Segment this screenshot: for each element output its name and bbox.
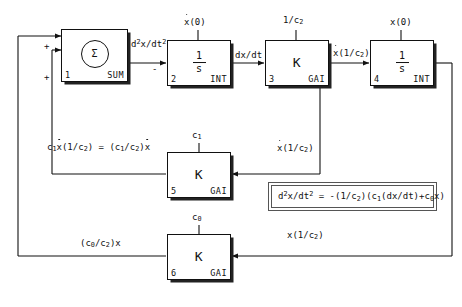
label-gain3-coefficient: 1/c2 [283,15,303,27]
block-kind-5: GAI [210,186,227,197]
block-index-1: 1 [65,70,70,81]
block-kind-6: GAI [210,268,227,279]
sign-sum-input-bottom: + [44,72,49,82]
label-signal-gain6-input: x(1/c2) [287,230,324,242]
label-signal-gain5-input: x(1/c2) [277,143,314,155]
label-gain5-coefficient: c1 [192,130,202,142]
block-gain-3[interactable]: K 3 GAI [265,40,329,86]
sign-sum-input-top: + [44,41,49,51]
label-ic-x-zero: x(0) [390,17,412,27]
block-index-6: 6 [171,268,176,279]
label-ic-xdot-zero: xx(0)(0) [184,17,206,27]
block-index-4: 4 [374,74,379,85]
equation-box: d2x/dt2 = -(1/c2)(c1(dx/dt)+c0x) d2x/dt2… [268,182,437,211]
block-gain-5[interactable]: K 5 GAI [167,152,231,198]
block-kind-3: GAI [308,74,325,85]
block-integrator-4[interactable]: 1 s 4 INT [370,40,434,86]
frac-numerator-2: 1 [168,51,230,60]
gain-symbol-3: K [266,55,328,70]
gain-symbol-5: K [168,167,230,182]
block-sum-1[interactable]: Σ 1 SUM [61,29,128,82]
sign-int1-input: - [152,64,157,74]
label-gain6-coefficient: c0 [192,212,202,224]
one-over-s-symbol-4: 1 s [371,51,433,73]
summer-circle: Σ [81,40,109,68]
label-signal-gain5-output: c1x(1/c2) = (c1/c2)x c1x(1/c2) = (c1/c2)… [47,142,150,154]
equation-text: d2x/dt2 = -(1/c2)(c1(dx/dt)+c0x) d2x/dt2… [271,185,434,208]
block-kind-1: SUM [107,70,124,81]
block-integrator-2[interactable]: 1 s 2 INT [167,40,231,86]
frac-denominator-4: s [371,64,433,73]
frac-numerator-4: 1 [371,51,433,60]
block-index-3: 3 [269,74,274,85]
label-signal-gain6-output: (c0/c2)x (c0/c2)x [80,238,121,250]
gain-symbol-6: K [168,249,230,264]
sigma-icon: Σ [82,49,108,60]
block-index-2: 2 [171,74,176,85]
block-kind-2: INT [210,74,227,85]
block-kind-4: INT [413,74,430,85]
frac-denominator-2: s [168,64,230,73]
label-signal-gain3-output: xx(1/c(1/c2) [333,48,370,60]
block-index-5: 5 [171,186,176,197]
block-gain-6[interactable]: K 6 GAI [167,234,231,280]
label-signal-sum-output: d2x/dt2 [131,37,166,49]
label-signal-int1-output: dx/dt [235,50,262,60]
diagram-canvas: Σ 1 SUM 1 s 2 INT K 3 GAI 1 s 4 INT K 5 … [0,0,462,307]
one-over-s-symbol: 1 s [168,51,230,73]
